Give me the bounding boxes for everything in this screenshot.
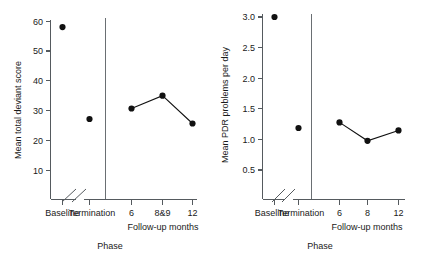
- x-tick-label-left-12: 12: [187, 208, 197, 218]
- x-tick-label-left-6: 6: [129, 208, 134, 218]
- y-tick-label-right-3-0: 3.0: [242, 12, 255, 22]
- y-tick-label-left-10: 10: [33, 166, 43, 176]
- y-axis-title-right: Mean PDR problems per day: [220, 46, 230, 163]
- x-tick-label-right-8: 8: [365, 208, 370, 218]
- data-point-left-12: [189, 120, 195, 126]
- y-tick-label-left-60: 60: [33, 17, 43, 27]
- y-tick-label-left-20: 20: [33, 136, 43, 146]
- chart-panel-right: 0.5 1.0 1.5 2.0 2.5 3.0 Mean PDR problem…: [215, 0, 430, 273]
- series-line-right-followup: [340, 122, 399, 140]
- x-tick-label-right-6: 6: [337, 208, 342, 218]
- x-axis-title-left: Phase: [97, 241, 123, 251]
- x-axis-title-right: Phase: [307, 241, 333, 251]
- data-point-left-8and9: [159, 93, 165, 99]
- figure-two-panel-chart: 10 20 30 40 50 60 Mean total deviant sco…: [0, 0, 430, 273]
- x-tick-label-left-termination: Termination: [69, 208, 116, 218]
- data-point-left-termination: [86, 116, 92, 122]
- x-tick-label-right-12: 12: [393, 208, 403, 218]
- x-axis-secondary-label-right: Follow-up months: [331, 222, 403, 232]
- y-axis-title-left: Mean total deviant score: [13, 61, 23, 159]
- data-point-right-12: [395, 127, 401, 133]
- data-point-right-termination: [295, 125, 301, 131]
- x-axis-secondary-label-left: Follow-up months: [127, 222, 199, 232]
- y-tick-label-right-2-0: 2.0: [242, 74, 255, 84]
- y-tick-label-left-40: 40: [33, 76, 43, 86]
- y-tick-label-right-2-5: 2.5: [242, 43, 255, 53]
- x-tick-label-right-termination: Termination: [278, 208, 325, 218]
- x-tick-label-left-8and9: 8&9: [154, 208, 170, 218]
- data-point-right-baseline: [271, 14, 277, 20]
- y-tick-label-right-0-5: 0.5: [242, 165, 255, 175]
- data-point-right-8: [364, 138, 370, 144]
- series-line-left-followup: [132, 96, 193, 124]
- data-point-right-6: [336, 119, 342, 125]
- y-tick-label-right-1-5: 1.5: [242, 104, 255, 114]
- y-tick-label-left-50: 50: [33, 46, 43, 56]
- y-tick-label-left-30: 30: [33, 106, 43, 116]
- data-point-left-6: [128, 105, 134, 111]
- y-tick-label-right-1-0: 1.0: [242, 135, 255, 145]
- chart-panel-left: 10 20 30 40 50 60 Mean total deviant sco…: [0, 0, 215, 273]
- data-point-left-baseline: [59, 24, 65, 30]
